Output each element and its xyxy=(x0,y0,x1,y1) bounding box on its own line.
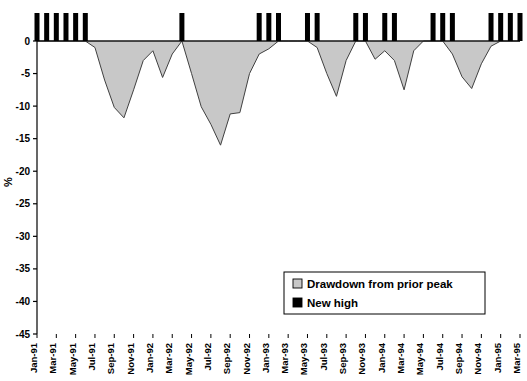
y-tick-label: -35 xyxy=(16,263,31,274)
x-tick-label: May-94 xyxy=(414,342,425,375)
new-high-bar xyxy=(508,13,513,41)
x-tick-label: Jan-93 xyxy=(260,343,271,373)
chart-legend: Drawdown from prior peakNew high xyxy=(284,272,485,314)
new-high-bar xyxy=(276,13,281,41)
x-tick-label: Mar-92 xyxy=(163,343,174,374)
x-tick-label: Jan-94 xyxy=(376,342,387,373)
y-tick-label: -45 xyxy=(16,329,31,340)
drawdown-chart: 0-5-10-15-20-25-30-35-40-45 Jan-91Mar-91… xyxy=(0,0,527,381)
new-high-bar xyxy=(392,13,397,41)
x-tick-label: May-93 xyxy=(298,343,309,375)
x-tick-label: Sep-92 xyxy=(221,343,232,374)
x-tick-label: Jan-92 xyxy=(144,343,155,373)
y-tick-label: -40 xyxy=(16,296,31,307)
y-tick-label: -30 xyxy=(16,231,31,242)
y-tick-label: -5 xyxy=(21,68,30,79)
legend-swatch xyxy=(293,298,302,307)
new-high-bar xyxy=(353,13,358,41)
new-high-bar xyxy=(431,13,436,41)
x-tick-label: Jul-91 xyxy=(86,342,97,370)
x-tick-label: Nov-94 xyxy=(472,342,483,374)
new-high-bar xyxy=(54,13,59,41)
chart-canvas: 0-5-10-15-20-25-30-35-40-45 Jan-91Mar-91… xyxy=(0,0,527,381)
new-high-bar xyxy=(489,13,494,41)
new-high-bar xyxy=(382,13,387,41)
new-high-bar xyxy=(179,13,184,41)
y-tick-label: -15 xyxy=(16,133,31,144)
y-tick-label: -25 xyxy=(16,198,31,209)
new-high-bar xyxy=(73,13,78,41)
x-tick-label: Jan-95 xyxy=(492,342,503,373)
new-high-bar xyxy=(363,13,368,41)
x-tick-label: Sep-93 xyxy=(337,343,348,374)
x-tick-label: Jul-94 xyxy=(434,342,445,370)
new-high-bar xyxy=(498,13,503,41)
new-high-bar xyxy=(257,13,262,41)
new-high-bar xyxy=(450,13,455,41)
legend-swatch xyxy=(293,279,302,288)
new-high-bar xyxy=(63,13,68,41)
new-high-bar xyxy=(315,13,320,41)
x-tick-label: Jul-93 xyxy=(318,343,329,370)
new-high-bar xyxy=(518,13,523,41)
x-tick-label: Jul-92 xyxy=(202,343,213,370)
x-tick-label: Mar-94 xyxy=(395,342,406,373)
new-high-bar xyxy=(83,13,88,41)
chart-background xyxy=(0,0,527,381)
new-high-bar xyxy=(35,13,40,41)
legend-label: Drawdown from prior peak xyxy=(307,278,453,290)
x-tick-label: Mar-95 xyxy=(511,342,522,373)
new-high-bar xyxy=(440,13,445,41)
x-tick-label: Sep-94 xyxy=(453,342,464,374)
x-tick-label: Sep-91 xyxy=(105,342,116,374)
y-tick-label: -10 xyxy=(16,101,31,112)
x-tick-label: Mar-91 xyxy=(47,342,58,373)
x-tick-label: Nov-91 xyxy=(125,342,136,374)
x-tick-label: Mar-93 xyxy=(279,343,290,374)
new-high-bar xyxy=(44,13,49,41)
x-tick-label: Jan-91 xyxy=(28,342,39,373)
y-axis-title: % xyxy=(2,177,14,187)
y-tick-label: 0 xyxy=(24,36,30,47)
legend-label: New high xyxy=(307,297,358,309)
x-tick-label: Nov-92 xyxy=(241,343,252,375)
new-high-bar xyxy=(266,13,271,41)
y-tick-label: -20 xyxy=(16,166,31,177)
x-tick-label: Nov-93 xyxy=(356,343,367,375)
x-tick-label: May-92 xyxy=(183,343,194,375)
new-high-bar xyxy=(305,13,310,41)
x-tick-label: May-91 xyxy=(67,342,78,375)
